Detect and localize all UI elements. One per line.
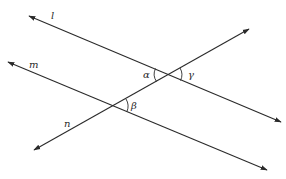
angle-arc-beta bbox=[126, 99, 128, 112]
angle-label-gamma: γ bbox=[188, 69, 194, 80]
line-label-l: l bbox=[51, 10, 54, 21]
angle-arc-alpha bbox=[154, 69, 156, 82]
angle-label-beta: β bbox=[130, 100, 137, 111]
angle-label-alpha: α bbox=[143, 69, 150, 80]
lines-layer bbox=[8, 16, 281, 170]
parallel-lines-transversal-diagram: lmnαγβ bbox=[0, 0, 286, 179]
line-m bbox=[8, 62, 267, 170]
line-n bbox=[34, 29, 249, 150]
line-label-m: m bbox=[29, 59, 38, 70]
labels-layer: lmnαγβ bbox=[29, 10, 194, 129]
angle-arc-gamma bbox=[180, 68, 182, 81]
line-label-n: n bbox=[64, 118, 70, 129]
